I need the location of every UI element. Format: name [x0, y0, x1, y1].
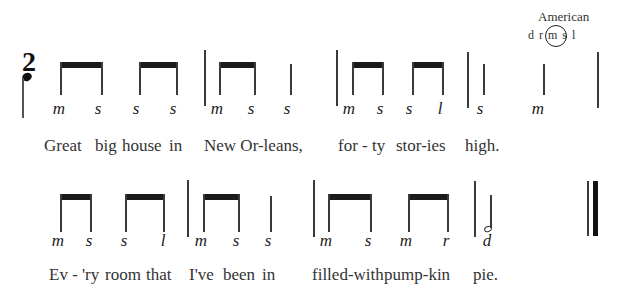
lyric-word: that: [146, 265, 172, 285]
barline: [336, 50, 338, 106]
lyric-word: I've: [189, 265, 214, 285]
note-stem: [447, 194, 449, 232]
eighth-beam: [60, 194, 92, 200]
half-note-stem: [490, 195, 492, 228]
note-stem: [101, 62, 103, 95]
eighth-beam: [412, 62, 444, 68]
barline: [474, 181, 476, 237]
solfege-syllable: s: [284, 99, 291, 119]
solfege-syllable: s: [95, 99, 102, 119]
solfege-syllable: r: [443, 231, 450, 251]
lyric-word: stor-ies: [396, 136, 446, 156]
solfege-syllable: s: [86, 231, 93, 251]
lyric-word: pie.: [473, 265, 498, 285]
eighth-beam: [219, 62, 256, 68]
note-stem: [176, 62, 178, 95]
note-stem: [352, 62, 354, 95]
note-stem: [408, 194, 410, 232]
tone-set-title: American: [538, 9, 589, 25]
solfege-syllable: s: [170, 99, 177, 119]
lyric-word: New Or-leans,: [204, 136, 303, 156]
solfege-syllable: s: [233, 231, 240, 251]
lyric-word: Ev - 'ry: [49, 265, 99, 285]
lyric-word: in: [262, 265, 275, 285]
lyric-word: in: [169, 136, 182, 156]
time-signature: 2: [22, 49, 36, 75]
eighth-beam: [408, 194, 449, 200]
solfege-syllable: m: [53, 99, 65, 119]
lyric-word: for - ty: [338, 136, 385, 156]
barline: [187, 180, 189, 237]
quarter-stem: [483, 64, 485, 95]
eighth-beam: [352, 62, 384, 68]
quarter-note-stem: [22, 78, 24, 118]
quarter-stem: [290, 64, 292, 95]
note-stem: [328, 194, 330, 232]
lyric-word: big: [95, 136, 117, 156]
lyric-word: been: [223, 265, 255, 285]
solfege-syllable: s: [477, 99, 484, 119]
note-stem: [125, 194, 127, 232]
lyric-word: pump-kin: [384, 265, 450, 285]
barline: [467, 52, 469, 108]
solfege-syllable: m: [343, 99, 355, 119]
solfege-syllable: l: [438, 99, 443, 119]
eighth-beam: [328, 194, 372, 200]
solfege-syllable: d: [483, 231, 492, 251]
note-stem: [139, 62, 141, 95]
solfege-syllable: s: [133, 99, 140, 119]
lyric-word: filled-with: [312, 265, 384, 285]
solfege-syllable: m: [532, 99, 544, 119]
eighth-beam: [125, 194, 165, 200]
eighth-beam: [60, 62, 103, 68]
solfege-syllable: m: [195, 231, 207, 251]
eighth-beam: [139, 62, 178, 68]
note-stem: [238, 194, 240, 232]
note-stem: [219, 62, 221, 95]
solfege-syllable: s: [121, 231, 128, 251]
note-stem: [382, 62, 384, 95]
note-stem: [60, 194, 62, 232]
solfege-syllable: m: [400, 231, 412, 251]
barline: [313, 180, 315, 237]
solfege-syllable: s: [265, 231, 272, 251]
solfege-syllable: s: [365, 231, 372, 251]
lyric-word: room: [105, 265, 141, 285]
final-barline-thin: [587, 181, 589, 236]
solfege-syllable: m: [211, 99, 223, 119]
note-stem: [163, 194, 165, 232]
solfege-syllable: s: [377, 99, 384, 119]
note-stem: [60, 62, 62, 95]
note-stem: [203, 194, 205, 232]
note-stem: [412, 62, 414, 95]
final-barline-thick: [593, 181, 598, 236]
quarter-stem: [270, 196, 272, 232]
barline: [204, 50, 206, 106]
lyric-word: Great: [44, 136, 82, 156]
quarter-stem: [543, 64, 545, 95]
note-stem: [370, 194, 372, 232]
eighth-beam: [203, 194, 240, 200]
lyric-word: house: [122, 136, 162, 156]
note-stem: [442, 62, 444, 95]
barline: [597, 52, 599, 108]
solfege-syllable: s: [406, 99, 413, 119]
note-stem: [254, 62, 256, 95]
tonic-circle-icon: [545, 25, 567, 47]
lyric-word: high.: [465, 136, 499, 156]
solfege-syllable: m: [52, 231, 64, 251]
solfege-syllable: m: [320, 231, 332, 251]
note-stem: [90, 194, 92, 232]
solfege-syllable: l: [161, 231, 166, 251]
solfege-syllable: s: [248, 99, 255, 119]
